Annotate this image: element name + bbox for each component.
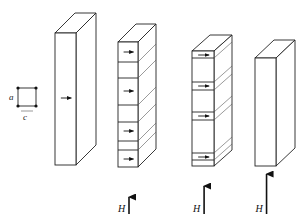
domain-stages: HHH: [55, 13, 295, 214]
lattice-point: [34, 104, 37, 107]
domain-block-3: H: [192, 35, 232, 214]
block-front-face: [118, 42, 138, 167]
lattice-point: [34, 86, 37, 89]
lattice-point: [16, 86, 19, 89]
field-h-label: H: [117, 203, 126, 214]
block-side-face: [76, 13, 96, 165]
field-h-label: H: [255, 203, 264, 214]
domain-block-2: H: [117, 24, 156, 214]
lattice-point: [16, 104, 19, 107]
axis-label-c: c: [23, 112, 27, 122]
axis-label-a: a: [9, 92, 14, 102]
block-side-face: [276, 40, 295, 166]
field-h-label: H: [192, 203, 201, 214]
block-side-face: [138, 24, 156, 167]
domain-block-1: [55, 13, 96, 165]
unit-cell-legend: a c: [9, 86, 38, 122]
block-front-face: [55, 33, 76, 165]
block-front-face: [192, 51, 214, 166]
block-front-face: [255, 58, 276, 166]
domain-block-4: H: [255, 40, 295, 214]
unit-cell-square: [18, 88, 36, 106]
domain-diagram: a c HHH: [0, 0, 302, 224]
